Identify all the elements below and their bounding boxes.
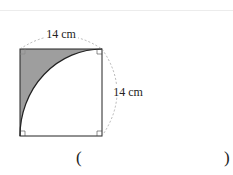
- right-angle-mark: [97, 131, 102, 136]
- geometry-figure: 14 cm 14 cm: [0, 0, 233, 175]
- top-dimension-label: 14 cm: [46, 27, 76, 41]
- answer-open-paren: (: [76, 148, 82, 168]
- answer-close-paren: ): [224, 148, 230, 168]
- side-dimension-label: 14 cm: [113, 85, 143, 99]
- shaded-region: [20, 49, 102, 136]
- right-angle-mark: [97, 49, 102, 54]
- right-angle-mark: [20, 131, 25, 136]
